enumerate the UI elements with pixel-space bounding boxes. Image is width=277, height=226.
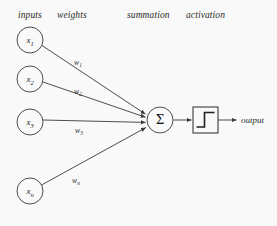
input-node-sub-x1: 1 <box>30 40 33 47</box>
column-header-inputs: inputs <box>18 10 42 20</box>
column-header-summation: summation <box>127 10 170 20</box>
input-node-label-xn: xn <box>26 186 33 198</box>
weight-label-w3: w3 <box>75 126 83 137</box>
input-node-label-x2: x2 <box>26 74 33 86</box>
weight-sub-w2: 2 <box>79 91 82 97</box>
weight-label-w1: w1 <box>74 58 82 69</box>
step-function-glyph <box>197 113 215 128</box>
weight-label-wn: wn <box>72 176 80 187</box>
input-node-sub-x3: 3 <box>30 122 33 129</box>
weight-sub-w3: 3 <box>80 130 83 136</box>
input-node-sub-x2: 2 <box>30 79 33 86</box>
column-header-weights: weights <box>57 10 87 20</box>
weight-label-w2: w2 <box>74 87 82 98</box>
neuron-diagram-figure: inputs weights summation activation x1 x… <box>0 0 277 226</box>
input-node-label-x3: x3 <box>26 117 33 129</box>
input-node-sub-xn: n <box>30 191 33 198</box>
weight-edge-wn <box>42 128 147 186</box>
weight-edge-w3 <box>43 120 146 122</box>
weight-sub-wn: n <box>77 180 80 186</box>
summation-symbol: Σ <box>156 113 164 127</box>
column-header-activation: activation <box>186 10 225 20</box>
weight-sub-w1: 1 <box>79 62 82 68</box>
weight-edge-w2 <box>43 82 146 117</box>
weight-edge-w1 <box>42 46 146 115</box>
diagram-canvas <box>0 0 277 226</box>
activation-box <box>193 107 218 133</box>
input-node-label-x1: x1 <box>26 35 33 47</box>
output-label: output <box>241 115 264 125</box>
